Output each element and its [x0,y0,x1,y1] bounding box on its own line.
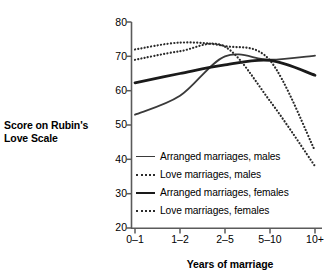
chart-legend: Arranged marriages, males Love marriages… [136,148,326,220]
plot-area [0,0,335,280]
legend-line-icon-love-males [136,170,155,180]
legend-line-icon-arranged-males [136,152,155,162]
legend-line-icon-arranged-females [136,188,155,198]
legend-item-love-females: Love marriages, females [136,202,326,220]
legend-item-love-males: Love marriages, males [136,166,326,184]
legend-line-icon-love-females [136,206,155,216]
legend-item-arranged-males: Arranged marriages, males [136,148,326,166]
y-tick-marks [126,22,132,228]
series-line-arranged-marriages-females [135,60,315,83]
legend-label-love-males: Love marriages, males [160,169,261,181]
legend-label-love-females: Love marriages, females [160,205,269,217]
legend-label-arranged-males: Arranged marriages, males [160,151,280,163]
chart-figure: Score on Rubin's Love Scale 80 70 60 50 … [0,0,335,280]
legend-label-arranged-females: Arranged marriages, females [160,187,289,199]
legend-item-arranged-females: Arranged marriages, females [136,184,326,202]
series-line-arranged-marriages-males [135,54,315,114]
